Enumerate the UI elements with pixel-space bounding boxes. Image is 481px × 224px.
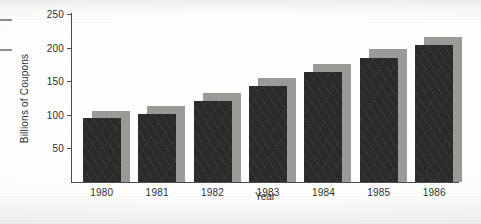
bar-front[interactable] [415,45,453,182]
y-tick-label: 200 [47,42,64,53]
bar-group[interactable] [194,93,241,182]
y-axis-title: Billions of Coupons [18,13,32,183]
bar-group[interactable] [83,111,130,182]
y-axis-title-text: Billions of Coupons [20,53,31,142]
y-tick-label: 150 [47,76,64,87]
chart-page: Billions of Coupons 50100150200250 19801… [0,0,481,224]
y-tick-mark [67,148,72,149]
x-axis-title: Year [71,191,459,202]
bar-front[interactable] [360,58,398,182]
bar-front[interactable] [194,101,232,182]
y-tick-mark [67,81,72,82]
y-tick-label: 100 [47,109,64,120]
margin-crop-dash-top [0,19,12,21]
plot-area: 50100150200250 1980198119821983198419851… [71,13,459,183]
x-axis-line [71,182,459,183]
bar-front[interactable] [83,118,121,182]
bar-front[interactable] [138,114,176,182]
bar-group[interactable] [415,37,462,182]
bar-group[interactable] [249,78,296,182]
bar-group[interactable] [360,49,407,182]
y-tick-mark [67,48,72,49]
bar-group[interactable] [304,64,351,182]
y-tick-mark [67,14,72,15]
bar-front[interactable] [304,72,342,182]
y-tick-label: 250 [47,9,64,20]
margin-crop-dash-bottom [0,49,12,51]
bar-front[interactable] [249,86,287,182]
y-tick-mark [67,115,72,116]
y-axis-line [71,13,72,183]
bar-group[interactable] [138,106,185,182]
y-tick-label: 50 [52,143,64,154]
